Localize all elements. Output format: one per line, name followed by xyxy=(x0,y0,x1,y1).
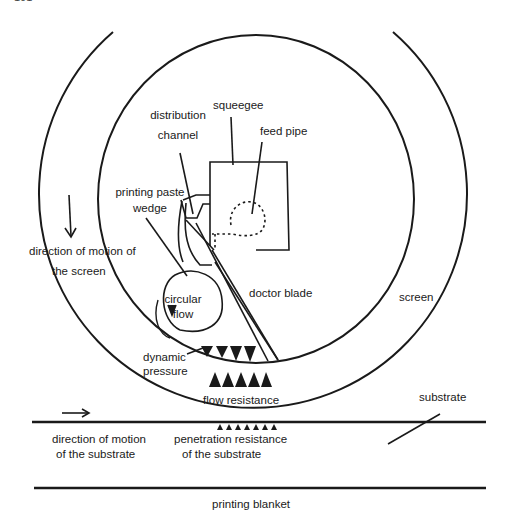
label-printing-paste-wedge-2: wedge xyxy=(108,201,192,215)
label-screen-motion-1: direction of motion of xyxy=(29,244,136,258)
feed-pipe-dotted xyxy=(212,202,265,236)
leader-substrate xyxy=(388,414,440,444)
label-distribution-channel-1: distribution xyxy=(146,108,210,122)
penetration-resistance-markers xyxy=(217,424,277,430)
label-substrate-motion-1: direction of motion xyxy=(52,432,146,446)
squeegee-box xyxy=(210,162,289,250)
label-dynamic-pressure-2: pressure xyxy=(143,364,188,378)
label-squeegee: squeegee xyxy=(213,98,264,112)
flow-resistance-markers xyxy=(209,372,272,387)
label-circular-flow-2: flow xyxy=(158,307,208,321)
label-substrate: substrate xyxy=(419,390,466,404)
label-flow-resistance: flow resistance xyxy=(203,393,279,407)
label-printing-blanket: printing blanket xyxy=(212,497,290,511)
inner-screen-circle xyxy=(98,35,414,363)
label-penetration-resistance-1: penetration resistance xyxy=(174,432,287,446)
leader-wedge xyxy=(146,218,187,276)
arrow-screen-motion xyxy=(69,195,71,236)
label-substrate-motion-2: of the substrate xyxy=(56,447,135,461)
label-printing-paste-wedge-1: printing paste xyxy=(108,185,192,199)
label-circular-flow-1: circular xyxy=(158,292,208,306)
label-screen-motion-2: the screen xyxy=(52,264,106,278)
label-screen: screen xyxy=(399,290,434,304)
label-dynamic-pressure-1: dynamic xyxy=(143,350,186,364)
label-feed-pipe: feed pipe xyxy=(260,124,307,138)
label-penetration-resistance-2: of the substrate xyxy=(182,447,261,461)
label-distribution-channel-2: channel xyxy=(146,128,210,142)
leader-feed-pipe xyxy=(252,142,262,214)
leader-squeegee xyxy=(231,117,233,165)
label-doctor-blade: doctor blade xyxy=(249,286,312,300)
